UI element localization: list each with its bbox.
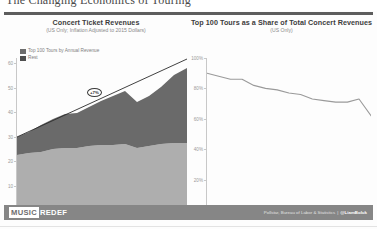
right-ytick-100: 100%: [190, 56, 203, 61]
area-series-top100: [17, 68, 187, 155]
musicredef-logo[interactable]: MUSIC REDEF: [9, 207, 67, 218]
left-ytick-20: 20: [4, 159, 13, 164]
legend-swatch-rest: [20, 56, 26, 61]
source-text: Pollstar, Bureau of Labor & Statistics: [264, 210, 335, 215]
legend-item-rest: Rest: [20, 55, 99, 61]
infographic-page: The Changing Economics of Touring Concer…: [0, 0, 377, 229]
left-chart-legend: Top 100 Tours by Annual Revenue Rest: [20, 48, 99, 62]
growth-badge: +7%: [87, 88, 102, 97]
legend-label-rest: Rest: [28, 55, 38, 61]
legend-label-top100: Top 100 Tours by Annual Revenue: [28, 48, 99, 54]
right-ytick-80: 80%: [190, 86, 203, 91]
left-ytick-10: 10: [4, 183, 13, 188]
right-ytick-20: 20%: [190, 177, 203, 182]
right-ytick-40: 40%: [190, 147, 203, 152]
footer-bar: MUSIC REDEF Pollstar, Bureau of Labor & …: [4, 205, 373, 220]
left-chart-subtitle: (US Only; Inflation Adjusted to 2015 Dol…: [4, 27, 188, 34]
headline-text: The Changing Economics of Touring: [6, 0, 191, 8]
left-ytick-40: 40: [4, 110, 13, 115]
right-ytick-60: 60%: [190, 116, 203, 121]
right-plot-area: 100% 80% 60% 40% 20% 0% 2000 2002 2004 2…: [190, 36, 373, 198]
legend-swatch-top100: [20, 49, 26, 54]
left-chart-title: Concert Ticket Revenues: [4, 16, 188, 27]
author-handle[interactable]: @LiamBoluk: [340, 210, 367, 215]
left-ytick-50: 50: [4, 85, 13, 90]
bottom-divider: [0, 226, 377, 227]
right-line-chart: [207, 58, 371, 210]
line-series-share: [207, 73, 371, 116]
right-chart-title: Top 100 Tours as a Share of Total Concer…: [190, 16, 373, 27]
left-area-chart: [17, 48, 187, 210]
footer-credit: Pollstar, Bureau of Labor & Statistics |…: [264, 210, 367, 215]
logo-music-text: MUSIC: [9, 207, 39, 218]
area-series-rest: [17, 143, 187, 210]
right-chart-panel: Top 100 Tours as a Share of Total Concer…: [190, 16, 373, 198]
credit-separator: |: [337, 210, 338, 215]
left-ytick-30: 30: [4, 134, 13, 139]
right-chart-subtitle: (US Only): [190, 27, 373, 34]
logo-redef-text: REDEF: [39, 208, 67, 217]
top-divider: [4, 12, 373, 15]
legend-item-top100: Top 100 Tours by Annual Revenue: [20, 48, 99, 54]
left-ytick-60: 60: [4, 61, 13, 66]
left-chart-panel: Concert Ticket Revenues (US Only; Inflat…: [4, 16, 188, 198]
headline-strip: The Changing Economics of Touring: [0, 0, 377, 11]
left-plot-area: 60 50 40 30 20 10: [4, 36, 188, 198]
